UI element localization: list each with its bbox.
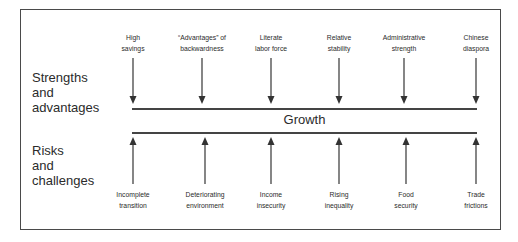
arrow-up-icon bbox=[268, 137, 275, 184]
arrows-layer bbox=[0, 0, 518, 242]
arrow-down-icon bbox=[401, 58, 408, 104]
arrow-down-icon bbox=[473, 58, 480, 104]
arrow-up-icon bbox=[336, 137, 343, 184]
arrow-down-icon bbox=[268, 58, 275, 104]
arrow-down-icon bbox=[199, 58, 206, 104]
arrow-up-icon bbox=[473, 137, 480, 184]
arrow-up-icon bbox=[130, 137, 137, 184]
arrow-up-icon bbox=[403, 137, 410, 184]
arrow-down-icon bbox=[336, 58, 343, 104]
arrow-up-icon bbox=[202, 137, 209, 184]
arrow-down-icon bbox=[130, 58, 137, 104]
